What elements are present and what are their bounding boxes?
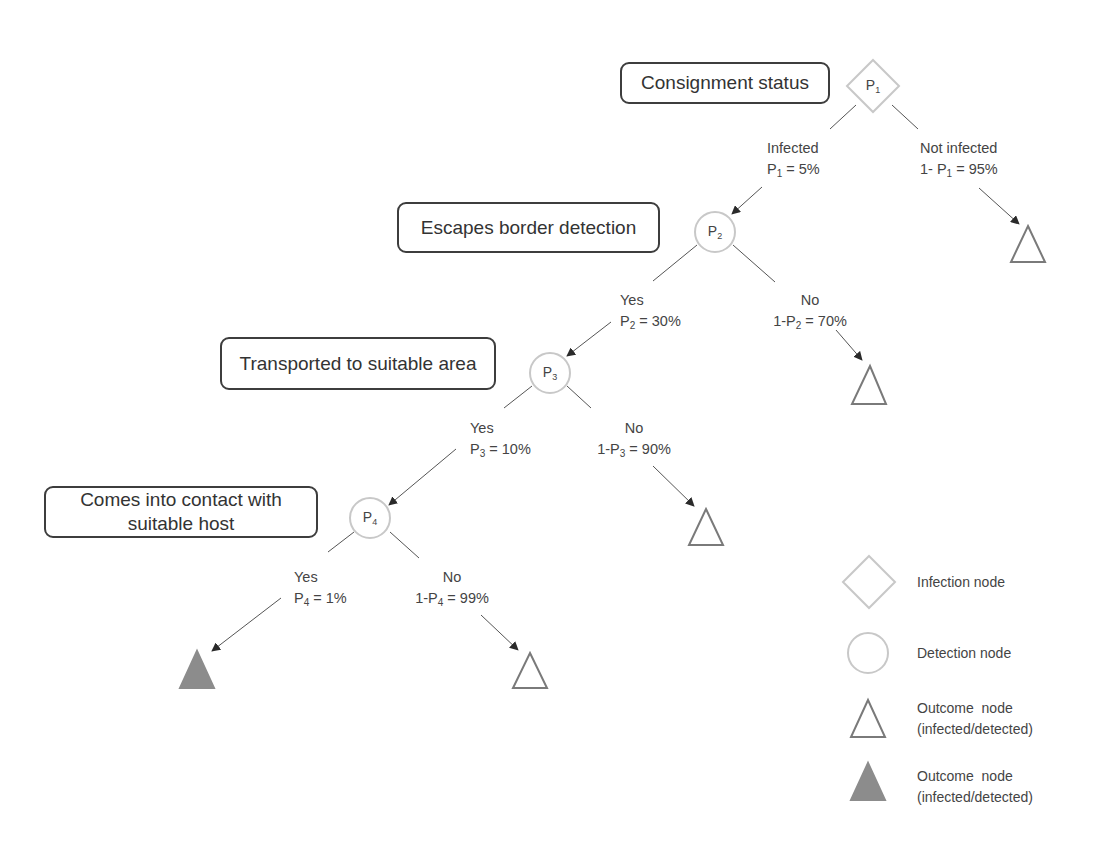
- step-label: Transported to suitable area: [240, 352, 477, 376]
- connector-p3-no: [567, 386, 591, 408]
- outcome-node-p2-no: [852, 366, 886, 404]
- legend-label-detection-node: Detection node: [917, 643, 1011, 664]
- filled-triangle-icon: [851, 763, 885, 800]
- branch-label-p4-no: No 1-P4 = 99%: [404, 567, 500, 613]
- hollow-triangle-icon: [851, 700, 885, 737]
- arrow-to-p4: [389, 449, 456, 505]
- branch-label-p2-yes: Yes P2 = 30%: [620, 290, 681, 336]
- step-label-line2: suitable host: [128, 512, 235, 536]
- arrow-to-outcome-1: [979, 188, 1019, 224]
- arrow-to-p3: [567, 322, 611, 356]
- branch-label-p1-no: Not infected 1- P1 = 95%: [920, 138, 998, 184]
- connector-p1-no: [892, 105, 918, 129]
- step-label: Escapes border detection: [421, 216, 636, 240]
- arrow-to-outcome-3: [653, 466, 694, 506]
- node-label-p3: P3: [530, 364, 570, 382]
- legend-label-infection-node: Infection node: [917, 572, 1005, 593]
- node-label-p1: P1: [853, 77, 893, 95]
- outcome-node-p4-no: [513, 653, 547, 688]
- connector-p2-yes: [653, 245, 697, 281]
- arrow-to-p2: [732, 187, 762, 214]
- legend-label-outcome-hollow: Outcome node (infected/detected): [917, 698, 1033, 740]
- node-label-p2: P2: [695, 223, 735, 241]
- connector-p1-yes: [830, 105, 856, 129]
- connector-p3-yes: [504, 386, 532, 408]
- outcome-node-not-infected: [1011, 226, 1045, 262]
- step-box-transported-suitable-area: Transported to suitable area: [220, 337, 496, 390]
- step-box-consignment-status: Consignment status: [620, 62, 830, 104]
- step-box-escapes-border-detection: Escapes border detection: [397, 202, 660, 253]
- outcome-node-p4-yes-filled: [180, 651, 214, 688]
- connector-p4-yes: [328, 532, 354, 552]
- step-label-line1: Comes into contact with: [80, 488, 282, 512]
- circle-icon: [848, 633, 888, 673]
- outcome-node-p3-no: [689, 509, 723, 545]
- connector-p2-no: [733, 245, 775, 282]
- arrow-to-outcome-4: [212, 598, 281, 651]
- step-box-contact-suitable-host: Comes into contact with suitable host: [44, 486, 318, 538]
- diamond-icon: [843, 556, 895, 608]
- branch-label-p3-yes: Yes P3 = 10%: [470, 418, 531, 464]
- connector-p4-no: [390, 532, 419, 558]
- branch-label-p2-no: No 1-P2 = 70%: [762, 290, 858, 336]
- branch-label-p3-no: No 1-P3 = 90%: [586, 418, 682, 464]
- step-label: Consignment status: [641, 71, 809, 95]
- branch-label-p1-yes: Infected P1 = 5%: [767, 138, 820, 184]
- node-label-p4: P4: [350, 509, 390, 527]
- branch-label-p4-yes: Yes P4 = 1%: [294, 567, 347, 613]
- arrow-to-outcome-5: [481, 615, 518, 650]
- legend-label-outcome-filled: Outcome node (infected/detected): [917, 766, 1033, 808]
